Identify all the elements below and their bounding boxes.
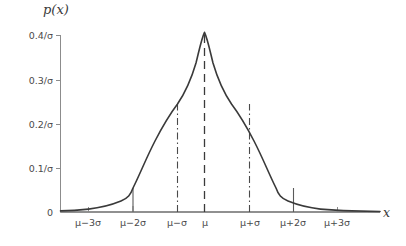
y-tick-label-0: 0.4/σ [8, 30, 53, 41]
x-tick-label-4: μ+σ [240, 217, 260, 228]
x-tick-label-2: μ−σ [167, 217, 187, 228]
gaussian-curve [61, 32, 381, 211]
y-axis-ticks [56, 36, 61, 169]
chart-canvas [0, 0, 406, 246]
y-tick-label-1: 0.3/σ [8, 75, 53, 86]
y-tick-label-3: 0.1/σ [8, 163, 53, 174]
x-axis-title: x [383, 205, 390, 220]
y-tick-label-4: 0 [8, 207, 53, 218]
y-tick-label-2: 0.2/σ [8, 119, 53, 130]
x-tick-label-3: μ [202, 217, 208, 228]
x-tick-label-1: μ−2σ [120, 217, 146, 228]
x-axis-ticks [89, 206, 338, 212]
x-tick-label-0: μ−3σ [75, 217, 101, 228]
y-axis-title: p(x) [43, 2, 69, 17]
x-tick-label-6: μ+3σ [324, 217, 350, 228]
x-tick-label-5: μ+2σ [280, 217, 306, 228]
normal-distribution-figure: p(x) x 0.4/σ 0.3/σ 0.2/σ 0.1/σ 0 μ−3σ μ−… [0, 0, 406, 246]
